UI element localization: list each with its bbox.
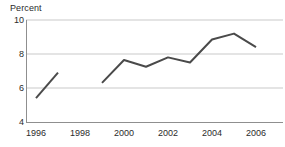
line-chart: Percent 10 8 6 4 1996 1998 2000 2002 200… [0, 0, 285, 147]
gridlines [26, 20, 283, 88]
data-line-segment-1 [36, 73, 58, 99]
data-line-segment-2 [102, 34, 256, 83]
plot-area [0, 0, 285, 147]
